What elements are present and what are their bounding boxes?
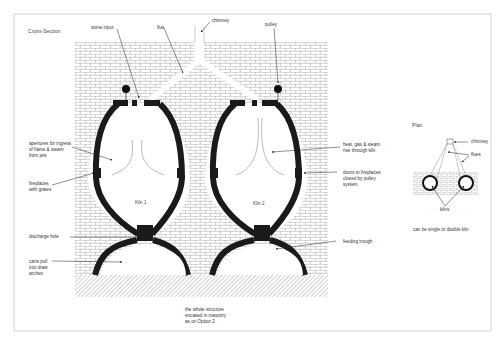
discharge-hole-label: discharge hole [29,234,59,240]
ground-hatch [75,275,328,297]
fireplace-right [177,168,184,178]
chimney-shaft [195,26,204,62]
carts-label: carts pull into draw arches [29,259,48,277]
cross-section-title: Cross-Section [28,28,61,34]
masonry-note: the whole structure encased in masonry a… [185,307,226,325]
plan-title: Plan [412,122,422,128]
plan-flues-label: flues [471,152,481,158]
fireplaces-label: fireplaces with grates [29,181,51,193]
kiln-1-label: Kiln 1 [135,200,147,206]
feeding-trough-label: feeding trough [343,239,372,245]
discharge-hole [137,225,153,241]
kiln-drawing [0,0,502,343]
plan-view [413,139,478,206]
pulley-label: pulley [265,22,277,28]
doors-label: doors to fireplaces closed by pulley sys… [343,170,381,188]
kiln-2-label: Kiln 2 [253,201,265,207]
plan-note: can be single or double kiln [413,227,469,233]
chimney-label: chimney [212,18,229,24]
fireplace-left [94,168,101,178]
heat-gas-label: heat, gas & steam rise through kiln [343,142,380,154]
diagram-canvas: Cross-Section stone input flue chimney p… [0,0,502,343]
plan-chimney-label: chimney [471,139,488,145]
flue-label: flue [157,25,164,31]
apertures-label: apertures for ingress of flame & steam f… [29,141,71,159]
stone-input-label: stone input [91,25,113,31]
plan-kilns-label: kilns [440,207,449,213]
